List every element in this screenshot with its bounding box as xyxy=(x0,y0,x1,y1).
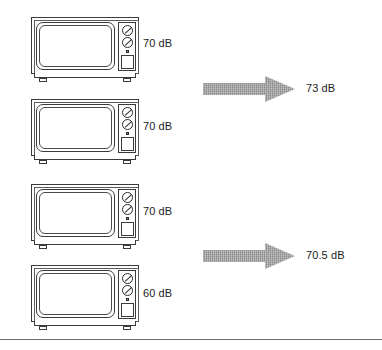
indicator-light-icon xyxy=(126,298,129,301)
result-level-label-2: 70.5 dB xyxy=(306,249,345,262)
tv-control-panel xyxy=(118,270,136,319)
tv-base xyxy=(34,321,136,326)
television-icon xyxy=(31,17,141,83)
tv-base xyxy=(34,73,136,78)
tv-foot-left xyxy=(39,326,47,330)
tv-foot-right xyxy=(123,160,131,164)
tv-base xyxy=(34,240,136,245)
tv-control-panel xyxy=(118,104,136,153)
tv-control-panel xyxy=(118,22,136,71)
speaker-grille-icon xyxy=(121,55,134,69)
tv-foot-left xyxy=(39,160,47,164)
tv-control-panel xyxy=(118,189,136,238)
speaker-grille-icon xyxy=(121,137,134,151)
source-level-label-1: 70 dB xyxy=(143,37,172,50)
tv-bezel xyxy=(36,104,115,152)
television-icon xyxy=(31,184,141,250)
tv-foot-right xyxy=(123,78,131,82)
tv-foot-right xyxy=(123,326,131,330)
tv-case xyxy=(31,265,139,322)
tuner-knob-icon xyxy=(122,192,133,203)
figure-bottom-rule xyxy=(0,339,382,340)
right-arrow-icon xyxy=(203,243,295,269)
indicator-light-icon xyxy=(126,217,129,220)
television-icon xyxy=(31,265,141,331)
tv-foot-right xyxy=(123,245,131,249)
tuner-knob-icon xyxy=(122,273,133,284)
volume-knob-icon xyxy=(122,37,133,48)
speaker-grille-icon xyxy=(121,222,134,236)
tuner-knob-icon xyxy=(122,25,133,36)
tv-screen xyxy=(39,25,112,67)
tv-screen xyxy=(39,273,112,315)
arrow-shaft xyxy=(203,83,267,95)
source-level-label-2: 70 dB xyxy=(143,120,172,133)
tv-base xyxy=(34,155,136,160)
indicator-light-icon xyxy=(126,132,129,135)
speaker-grille-icon xyxy=(121,303,134,317)
volume-knob-icon xyxy=(122,119,133,130)
right-arrow-icon xyxy=(203,76,295,102)
tuner-knob-icon xyxy=(122,107,133,118)
tv-screen xyxy=(39,192,112,234)
tv-foot-left xyxy=(39,78,47,82)
tv-case xyxy=(31,99,139,156)
tv-screen xyxy=(39,107,112,149)
volume-knob-icon xyxy=(122,285,133,296)
arrow-head xyxy=(265,76,295,102)
sound-level-diagram: 70 dB 70 dB xyxy=(0,0,382,350)
source-level-label-4: 60 dB xyxy=(143,287,172,300)
tv-bezel xyxy=(36,22,115,70)
volume-knob-icon xyxy=(122,204,133,215)
indicator-light-icon xyxy=(126,50,129,53)
tv-bezel xyxy=(36,189,115,237)
result-level-label-1: 73 dB xyxy=(306,82,335,95)
tv-case xyxy=(31,17,139,74)
tv-case xyxy=(31,184,139,241)
arrow-shaft xyxy=(203,250,267,262)
television-icon xyxy=(31,99,141,165)
source-level-label-3: 70 dB xyxy=(143,205,172,218)
arrow-head xyxy=(265,243,295,269)
tv-foot-left xyxy=(39,245,47,249)
tv-bezel xyxy=(36,270,115,318)
